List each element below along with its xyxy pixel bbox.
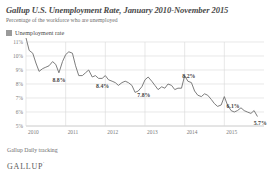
plot-area: 5%6%7%8%9%10%11%201020112012201320142015… [6, 38, 268, 138]
chart-footnote: Gallup Daily tracking [7, 147, 268, 153]
chart-container: Gallup U.S. Unemployment Rate, January 2… [0, 0, 272, 188]
chart-subtitle: Percentage of the workforce who are unem… [6, 16, 268, 24]
data-point-label: 5.7% [254, 120, 267, 126]
y-axis-tick-label: 11% [13, 39, 23, 45]
chart-legend: Unemployment rate [6, 28, 268, 37]
y-axis-tick-label: 6% [16, 109, 24, 115]
brand-mark: ' [43, 161, 45, 166]
y-axis-tick-label: 10% [13, 53, 23, 59]
data-point-label: 7.8% [137, 92, 150, 98]
legend-swatch-icon [6, 30, 12, 36]
data-point-label: 8.4% [96, 83, 109, 89]
y-axis-tick-label: 8% [16, 81, 24, 87]
x-axis-tick-label: 2010 [28, 129, 39, 135]
page-title: Gallup U.S. Unemployment Rate, January 2… [6, 5, 268, 15]
y-axis-tick-label: 9% [16, 67, 24, 73]
x-axis-tick-label: 2015 [226, 129, 237, 135]
x-axis-tick-label: 2013 [147, 129, 158, 135]
x-axis-tick-label: 2014 [187, 129, 198, 135]
data-point-label: 8.8% [52, 77, 65, 83]
y-axis-tick-label: 7% [16, 95, 24, 101]
x-axis-tick-label: 2011 [68, 129, 79, 135]
data-point-label: 6.1% [227, 103, 240, 109]
data-point-label: 8.2% [182, 73, 195, 79]
x-axis-tick-label: 2012 [107, 129, 118, 135]
brand-text: GALLUP [7, 162, 43, 171]
legend-item-label: Unemployment rate [15, 29, 64, 36]
gallup-logo: GALLUP' [7, 161, 268, 171]
line-chart-svg: 5%6%7%8%9%10%11%201020112012201320142015… [6, 38, 268, 138]
y-axis-tick-label: 5% [16, 123, 24, 129]
